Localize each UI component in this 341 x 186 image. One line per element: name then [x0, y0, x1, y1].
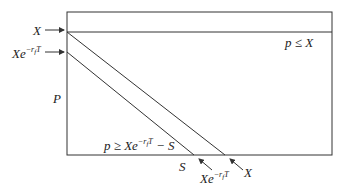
arrow-xe-bottom [199, 159, 212, 170]
diagram-canvas [0, 0, 341, 186]
label-region-top: p ≤ X [285, 36, 313, 49]
arrow-x-bottom [230, 159, 243, 170]
label-xe-left-exp: −rfT [26, 45, 41, 54]
outer-box [67, 12, 332, 155]
label-x-left: X [33, 24, 41, 37]
label-xe-bottom: Xe−rfT [200, 171, 229, 185]
label-xe-left-base: Xe [12, 46, 26, 61]
label-region-bottom: p ≥ Xe−rfT − S [104, 138, 175, 152]
label-x-bottom: X [244, 166, 252, 179]
label-p-axis: P [53, 92, 61, 105]
label-s-bottom: S [179, 160, 186, 173]
label-xe-left: Xe−rfT [12, 46, 41, 60]
